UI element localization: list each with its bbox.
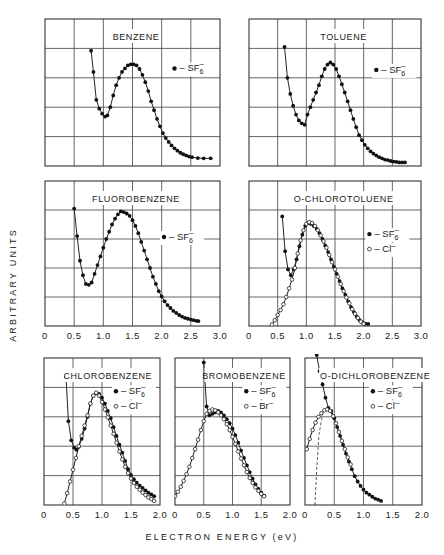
panel-title: CHLOROBENZENE (63, 371, 152, 381)
svg-text:0: 0 (41, 509, 47, 520)
figure-canvas: ARBITRARY UNITS ELECTRON ENERGY (eV) BEN… (0, 0, 444, 555)
series-line (272, 222, 364, 324)
legend-label: – SF6– (180, 59, 205, 75)
panel-title: TOLUENE (320, 32, 367, 42)
svg-text:2.0: 2.0 (415, 509, 430, 520)
legend: – SF6–– Br– (242, 382, 286, 414)
filled-circle-marker-icon (374, 68, 378, 72)
svg-text:0: 0 (246, 330, 252, 341)
svg-text:0.5: 0.5 (270, 330, 285, 341)
x-axis-label: ELECTRON ENERGY (eV) (146, 532, 299, 542)
svg-text:1.0: 1.0 (96, 330, 111, 341)
panel-title: BROMOBENZENE (202, 371, 286, 381)
svg-text:1.0: 1.0 (356, 509, 371, 520)
panel-title: FLUOROBENZENE (92, 194, 180, 204)
svg-text:2.0: 2.0 (154, 330, 169, 341)
svg-text:1.0: 1.0 (95, 509, 110, 520)
legend-label: – SF6– (378, 382, 403, 398)
dashed-extrapolation-line (315, 414, 323, 505)
svg-text:2.0: 2.0 (356, 330, 371, 341)
panel-fluorobenzene: FLUOROBENZENE– SF6–00.51.01.52.02.53.0 (42, 181, 227, 341)
open-circle-marker-icon (114, 404, 118, 408)
svg-text:1.5: 1.5 (328, 330, 343, 341)
svg-text:0.5: 0.5 (327, 509, 342, 520)
legend: – SF6–– Cl– (369, 382, 413, 414)
svg-text:3.0: 3.0 (213, 330, 228, 341)
legend: – SF6–– Cl– (365, 225, 409, 257)
svg-text:1.5: 1.5 (125, 330, 140, 341)
legend-label: – SF6– (381, 61, 406, 77)
svg-text:0: 0 (172, 509, 178, 520)
filled-circle-marker-icon (367, 232, 371, 236)
legend-label: – SF6– (374, 225, 399, 241)
svg-text:0.5: 0.5 (66, 509, 81, 520)
open-circle-marker-icon (368, 247, 372, 251)
filled-circle-marker-icon (172, 66, 176, 70)
x-tick-labels: 00.51.01.52.0 (41, 509, 167, 520)
x-tick-labels: 00.51.01.52.0 (302, 509, 429, 520)
filled-circle-marker-icon (114, 389, 118, 393)
legend-label: – SF6– (251, 382, 276, 398)
series-markers-cl (270, 220, 365, 326)
svg-text:0.5: 0.5 (67, 330, 82, 341)
filled-circle-marker-icon (162, 235, 166, 239)
x-tick-labels: 00.51.01.52.02.53.0 (42, 330, 227, 341)
panel-bromobenzene: BROMOBENZENE– SF6–– Br–00.51.01.52.0 (172, 358, 297, 520)
svg-text:2.0: 2.0 (283, 509, 298, 520)
filled-circle-marker-icon (244, 389, 248, 393)
y-axis-label: ARBITRARY UNITS (8, 228, 18, 342)
figure: ARBITRARY UNITS ELECTRON ENERGY (eV) BEN… (0, 0, 444, 555)
svg-text:2.0: 2.0 (153, 509, 168, 520)
legend: – SF6– (160, 228, 204, 245)
open-circle-marker-icon (244, 404, 248, 408)
panel-o-chlorotoluene: O-CHLOROTOLUENE– SF6–– Cl–00.51.01.52.02… (246, 181, 428, 341)
svg-text:2.5: 2.5 (385, 330, 400, 341)
svg-text:1.0: 1.0 (225, 509, 240, 520)
panel-title: O-DICHLOROBENZENE (320, 371, 430, 381)
svg-text:3.0: 3.0 (414, 330, 429, 341)
svg-text:2.5: 2.5 (183, 330, 198, 341)
series-markers-sf6 (72, 207, 200, 323)
svg-text:1.5: 1.5 (254, 509, 269, 520)
svg-text:1.0: 1.0 (299, 330, 314, 341)
panel-toluene: TOLUENE– SF6– (249, 19, 421, 166)
open-circle-marker-icon (371, 404, 375, 408)
panel-chlorobenzene: CHLOROBENZENE– SF6–– Cl–00.51.01.52.0 (41, 358, 167, 520)
svg-text:0: 0 (302, 509, 308, 520)
svg-text:1.5: 1.5 (124, 509, 139, 520)
panel-title: BENZENE (113, 32, 160, 42)
x-tick-labels: 00.51.01.52.02.53.0 (246, 330, 428, 341)
legend: – SF6–– Cl– (112, 382, 156, 414)
legend: – SF6– (372, 61, 416, 78)
filled-circle-marker-icon (371, 389, 375, 393)
svg-text:0: 0 (42, 330, 48, 341)
panel-o-dichlorobenzene: O-DICHLOROBENZENE– SF6–– Cl–00.51.01.52.… (302, 353, 431, 520)
x-tick-labels: 00.51.01.52.0 (172, 509, 297, 520)
panel-benzene: BENZENE– SF6– (45, 19, 220, 166)
svg-text:1.5: 1.5 (385, 509, 400, 520)
svg-text:0.5: 0.5 (196, 509, 211, 520)
legend-label: – SF6– (121, 382, 146, 398)
series-markers-br (173, 408, 266, 498)
series-markers-sf6 (280, 214, 370, 325)
legend-label: – SF6– (169, 228, 194, 244)
panel-title: O-CHLOROTOLUENE (294, 194, 394, 204)
legend: – SF6– (171, 59, 215, 76)
series-line (307, 409, 351, 464)
